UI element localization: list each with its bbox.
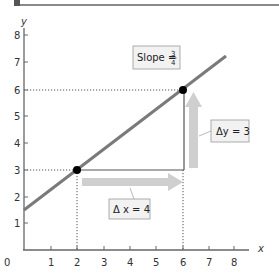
y-tick-1: 1	[14, 218, 20, 229]
y-axis-label: y	[20, 16, 28, 27]
x-tick-5: 5	[153, 257, 159, 268]
delta-x-annotation: Δ x = 4	[109, 199, 150, 219]
delta-y-arrow	[185, 92, 202, 168]
x-tick-4: 4	[127, 257, 133, 268]
y-tick-3: 3	[14, 165, 20, 176]
x-tick-3: 3	[101, 257, 107, 268]
y-tick-8: 8	[14, 30, 20, 41]
y-tick-2: 2	[14, 192, 20, 203]
x-tick-7: 7	[206, 257, 212, 268]
slope-numerator: 3	[171, 50, 175, 58]
delta-x-leader	[130, 188, 134, 199]
slope-annotation: Slope = 3 4	[133, 46, 180, 69]
delta-x-label: Δ x = 4	[113, 204, 150, 215]
delta-x-arrow	[82, 173, 183, 191]
x-tick-6: 6	[180, 257, 186, 268]
y-tick-7: 7	[14, 57, 20, 68]
delta-y-leader	[199, 131, 211, 136]
y-tick-5: 5	[14, 111, 20, 122]
point-6-6	[179, 86, 187, 94]
delta-y-annotation: Δy = 3	[211, 120, 250, 142]
slope-denominator: 4	[171, 59, 176, 67]
x-tick-2: 2	[74, 257, 80, 268]
x-tick-1: 1	[48, 257, 54, 268]
delta-y-label: Δy = 3	[216, 126, 250, 137]
slope-chart: 1 2 3 4 5 6 7 8 y 0 1 2 3 4 5 6 7 8 x Sl…	[0, 0, 279, 274]
x-axis-label: x	[257, 243, 264, 254]
point-2-3	[73, 166, 81, 174]
y-tick-6: 6	[14, 85, 20, 96]
y-tick-4: 4	[14, 138, 20, 149]
x-tick-0: 0	[4, 257, 10, 268]
x-tick-8: 8	[231, 257, 237, 268]
